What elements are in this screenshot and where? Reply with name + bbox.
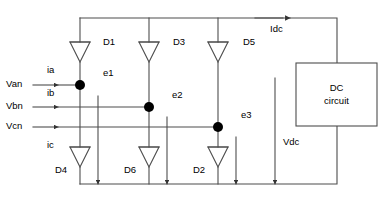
dc-circuit-label-line2: circuit (296, 95, 377, 107)
dc-circuit-label-line1: DC (296, 82, 377, 94)
current-label-ia: ia (47, 65, 54, 75)
diode-d4-symbol (70, 147, 90, 167)
circuit-diagram-canvas: Van Vbn Vcn ia ib ic Idc e1 e2 e3 D1 D3 … (0, 0, 390, 212)
diode-label-d4: D4 (55, 165, 67, 175)
diode-label-d2: D2 (193, 165, 205, 175)
node-label-e2: e2 (172, 90, 183, 100)
current-label-ib: ib (47, 88, 54, 98)
diode-d5-symbol (208, 42, 228, 62)
diode-label-d1: D1 (103, 37, 115, 47)
junction-dot-e3 (213, 122, 223, 132)
diode-label-d5: D5 (243, 37, 255, 47)
diode-label-d3: D3 (173, 37, 185, 47)
diode-label-d6: D6 (124, 165, 136, 175)
diode-d3-symbol (139, 42, 159, 62)
source-label-vbn: Vbn (6, 101, 23, 111)
top-rail-to-right-rail (290, 18, 337, 63)
current-label-ic: ic (47, 140, 54, 150)
diode-d1-symbol (70, 42, 90, 62)
diode-d2-symbol (208, 147, 228, 167)
voltage-label-vdc: Vdc (283, 137, 299, 147)
current-label-idc: Idc (270, 24, 283, 34)
junction-dot-e2 (144, 102, 154, 112)
node-label-e1: e1 (103, 68, 114, 78)
source-label-vcn: Vcn (6, 121, 22, 131)
source-label-van: Van (6, 79, 22, 89)
junction-dot-e1 (75, 80, 85, 90)
diode-d6-symbol (139, 147, 159, 167)
node-label-e3: e3 (241, 110, 252, 120)
bottom-dc-rail (80, 126, 337, 184)
